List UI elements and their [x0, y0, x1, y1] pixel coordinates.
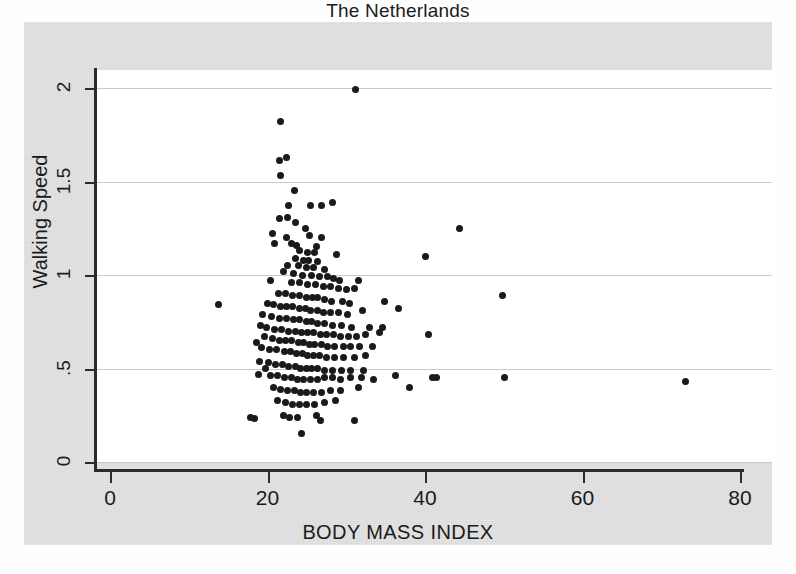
data-point [381, 298, 388, 305]
data-point [353, 333, 360, 340]
data-point [261, 333, 268, 340]
data-point [338, 322, 345, 329]
data-point [347, 343, 354, 350]
data-point [324, 343, 331, 350]
data-point [311, 249, 318, 256]
data-point [278, 326, 285, 333]
data-point [267, 277, 274, 284]
data-point [270, 384, 277, 391]
y-axis-line [94, 68, 97, 472]
data-point [276, 315, 283, 322]
data-point [369, 343, 376, 350]
data-point [456, 225, 463, 232]
data-point [327, 387, 334, 394]
data-point [274, 372, 281, 379]
data-point [298, 430, 305, 437]
data-point [327, 283, 334, 290]
data-point [282, 290, 289, 297]
data-point [286, 414, 293, 421]
data-point [321, 374, 328, 381]
data-point [271, 326, 278, 333]
data-point [277, 118, 284, 125]
y-axis-tick [85, 462, 96, 464]
data-point [347, 367, 354, 374]
data-point [308, 272, 315, 279]
data-point [345, 333, 352, 340]
data-point [323, 331, 330, 338]
data-point [333, 251, 340, 258]
data-point [338, 367, 345, 374]
data-point [348, 324, 355, 331]
data-point [274, 397, 281, 404]
x-axis-tick [740, 472, 742, 483]
data-point [329, 374, 336, 381]
data-point [289, 292, 296, 299]
data-point [352, 86, 359, 93]
data-point [294, 414, 301, 421]
data-point [296, 247, 303, 254]
data-point [285, 202, 292, 209]
data-point [311, 401, 318, 408]
data-point [355, 277, 362, 284]
data-point [336, 277, 343, 284]
data-point [306, 232, 313, 239]
x-axis-tick-label: 0 [80, 486, 140, 510]
data-point [392, 372, 399, 379]
data-point [406, 384, 413, 391]
data-point [276, 215, 283, 222]
data-point [362, 352, 369, 359]
data-point [269, 335, 276, 342]
data-point [256, 358, 263, 365]
data-point [268, 313, 275, 320]
data-point [302, 225, 309, 232]
data-point [337, 333, 344, 340]
data-point [331, 354, 338, 361]
data-point [303, 401, 310, 408]
data-point [276, 157, 283, 164]
data-point [263, 324, 270, 331]
data-point [422, 253, 429, 260]
data-point [307, 202, 314, 209]
data-point [370, 376, 377, 383]
data-point [295, 262, 302, 269]
data-point [346, 300, 353, 307]
data-point [284, 214, 291, 221]
x-axis-title: BODY MASS INDEX [0, 521, 796, 544]
data-point [304, 281, 311, 288]
data-point [335, 285, 342, 292]
data-point [282, 399, 289, 406]
data-point [296, 401, 303, 408]
data-point [321, 367, 328, 374]
data-point [304, 249, 311, 256]
data-point [355, 384, 362, 391]
data-point [289, 401, 296, 408]
data-point [335, 309, 342, 316]
y-axis-tick-label: 1.5 [53, 158, 75, 204]
data-point [327, 309, 334, 316]
y-axis-tick [85, 88, 96, 90]
data-point [329, 199, 336, 206]
data-point [271, 240, 278, 247]
data-point [291, 187, 298, 194]
data-point [320, 283, 327, 290]
scatter-points-layer [96, 70, 772, 462]
data-point [329, 367, 336, 374]
data-point [314, 320, 321, 327]
gridline [96, 462, 772, 463]
y-axis-title: Walking Speed [29, 112, 52, 332]
x-axis-tick [425, 472, 427, 483]
data-point [340, 354, 347, 361]
chart-title: The Netherlands [0, 0, 796, 22]
y-axis-tick-label: .5 [53, 345, 75, 391]
data-point [356, 343, 363, 350]
data-point [351, 417, 358, 424]
data-point [318, 389, 325, 396]
data-point [337, 387, 344, 394]
data-point [318, 234, 325, 241]
data-point [317, 417, 324, 424]
data-point [321, 296, 328, 303]
data-point [329, 322, 336, 329]
x-axis-line [94, 469, 744, 472]
data-point [682, 378, 689, 385]
data-point [277, 386, 284, 393]
